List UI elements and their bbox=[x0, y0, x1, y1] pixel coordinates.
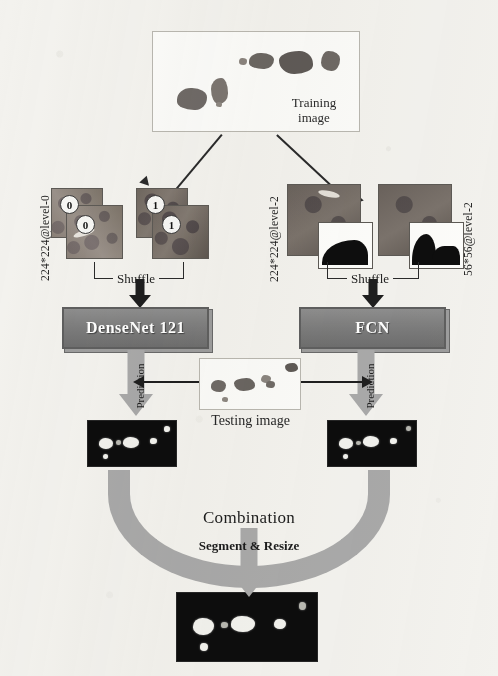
seg-blob bbox=[123, 437, 139, 448]
training-image-label: Training image bbox=[277, 95, 351, 125]
arrow-shuffle-to-densenet bbox=[129, 279, 151, 308]
tissue-blob bbox=[279, 51, 313, 74]
seg-blob bbox=[99, 438, 113, 449]
patch-label-0b: 0 bbox=[76, 215, 95, 234]
training-label-line1: Training bbox=[277, 95, 351, 110]
combination-label: Combination bbox=[0, 508, 498, 528]
tissue-blob bbox=[222, 397, 228, 402]
seg-blob bbox=[274, 619, 286, 629]
seg-blob bbox=[116, 440, 121, 445]
arrowhead-test-right bbox=[362, 376, 373, 388]
patch-class1-b: 1 bbox=[152, 205, 209, 259]
tissue-blob bbox=[177, 88, 207, 110]
tissue-blob bbox=[249, 53, 274, 69]
seg-blob bbox=[343, 454, 348, 459]
seg-blob bbox=[406, 426, 411, 431]
size-label-level2-left: 224*224@level-2 bbox=[268, 189, 280, 289]
model-label-densenet: DenseNet 121 bbox=[86, 319, 185, 337]
tissue-blob bbox=[266, 381, 275, 388]
testing-image-label: Testing image bbox=[178, 413, 323, 429]
model-box-fcn[interactable]: FCN bbox=[299, 307, 446, 349]
seg-blob bbox=[164, 426, 170, 432]
figure-canvas: Training image 224*224@level-0 0 0 1 1 S… bbox=[0, 0, 498, 676]
arrowhead-test-left bbox=[133, 376, 144, 388]
seg-blob bbox=[363, 436, 379, 447]
tissue-blob bbox=[239, 58, 247, 65]
patch-label-1b: 1 bbox=[162, 215, 181, 234]
arrow-test-to-right bbox=[290, 381, 366, 383]
tissue-blob bbox=[285, 363, 298, 372]
tissue-blob bbox=[211, 380, 226, 392]
prediction-output-left bbox=[87, 420, 177, 467]
patch-label-1: 1 bbox=[146, 195, 165, 214]
tissue-blob bbox=[211, 78, 228, 104]
final-output-panel bbox=[176, 592, 318, 662]
tissue-blob bbox=[321, 51, 340, 71]
arrow-shuffle-to-fcn bbox=[362, 279, 384, 308]
seg-blob bbox=[200, 643, 208, 651]
training-label-line2: image bbox=[277, 110, 351, 125]
seg-blob bbox=[339, 438, 353, 449]
patch-lumen bbox=[318, 189, 341, 199]
seg-blob bbox=[150, 438, 157, 444]
patch-class0-b: 0 bbox=[66, 205, 123, 259]
testing-image-panel bbox=[199, 358, 301, 410]
seg-blob bbox=[103, 454, 108, 459]
patch-label-0: 0 bbox=[60, 195, 79, 214]
seg-blob bbox=[390, 438, 397, 444]
seg-blob bbox=[193, 618, 214, 635]
training-image-panel: Training image bbox=[152, 31, 360, 132]
size-label-level0: 224*224@level-0 bbox=[39, 188, 51, 288]
seg-blob bbox=[299, 602, 306, 610]
model-label-fcn: FCN bbox=[355, 319, 389, 337]
model-box-densenet[interactable]: DenseNet 121 bbox=[62, 307, 209, 349]
seg-blob bbox=[356, 441, 361, 445]
seg-blob bbox=[221, 622, 228, 628]
tissue-blob bbox=[216, 102, 222, 107]
prediction-output-right bbox=[327, 420, 417, 467]
tissue-blob bbox=[234, 378, 255, 391]
seg-blob bbox=[231, 616, 255, 632]
segment-resize-label: Segment & Resize bbox=[0, 538, 498, 554]
mask-region-b2 bbox=[432, 246, 460, 265]
